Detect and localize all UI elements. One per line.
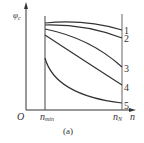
nN-label: nN: [113, 111, 123, 122]
origin-label: O: [17, 111, 24, 122]
caption: (a): [63, 126, 73, 136]
curve-label-2: 2: [124, 33, 129, 44]
y-axis-label: φc: [13, 10, 21, 21]
curve-1: [45, 22, 122, 30]
curve-label-5: 5: [124, 100, 129, 111]
curve-3: [45, 29, 122, 67]
curve-label-4: 4: [124, 82, 129, 93]
curve-5: [45, 58, 122, 103]
nmin-label: nmin: [40, 111, 54, 122]
characteristic-diagram: 1 2 3 4 5 φc O nmin nN n (a): [0, 0, 144, 143]
x-axis-label: n: [130, 111, 135, 122]
y-axis-arrow-icon: [24, 2, 28, 9]
curve-label-3: 3: [124, 63, 129, 74]
